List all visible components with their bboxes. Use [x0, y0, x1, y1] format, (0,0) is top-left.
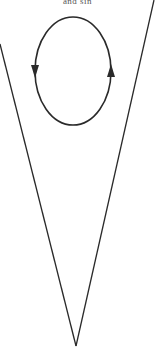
up-arrow-icon	[107, 64, 115, 77]
cone-right-edge	[76, 0, 154, 346]
circulation-loop	[35, 17, 111, 125]
cone-left-edge	[0, 44, 76, 346]
cone-with-loop-diagram	[0, 0, 155, 361]
down-arrow-icon	[31, 65, 39, 78]
